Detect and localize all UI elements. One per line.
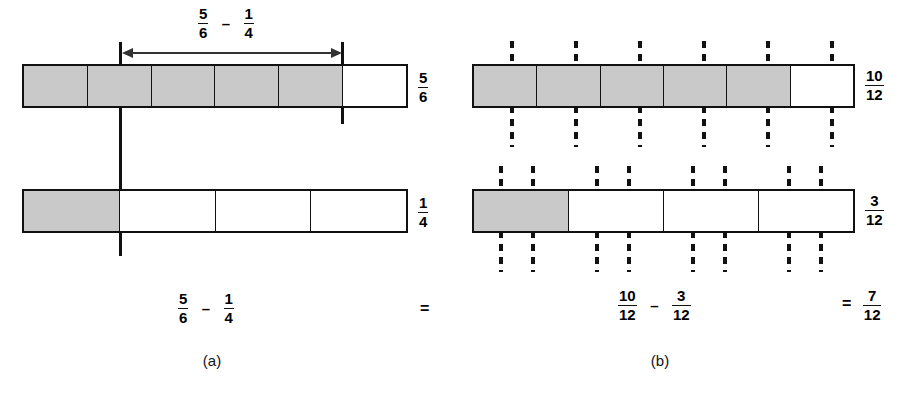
panel-b-equals-sign: = [842,295,851,312]
three-twelfths-label: 3 12 [865,193,884,228]
measure-arrow-line [126,52,340,54]
bar-cell [759,191,853,231]
five-sixths-bar [22,64,408,108]
span-measure-label: 5 6 – 1 4 [198,6,254,41]
three-twelfths-bar [472,189,855,233]
span-label-operator: – [213,15,239,32]
bar-cell [24,66,88,106]
panel-b-result: = 7 12 [842,288,881,323]
fraction-subtraction-figure: 5 6 – 1 4 5 6 1 [0,0,902,396]
bar-cell [24,191,120,231]
panel-a-eq-operator: – [193,300,219,317]
panel-b-caption: (b) [628,352,692,369]
bar-cell [279,66,343,106]
panel-b-result-fraction: 7 12 [863,288,882,323]
ten-twelfths-bar [472,64,855,108]
bar-cell [601,66,664,106]
bar-cell [791,66,853,106]
panel-a-eq-left: 5 6 [178,291,188,326]
ten-twelfths-label: 10 12 [865,68,884,103]
panel-b-eq-left: 10 12 [618,288,637,323]
measure-arrow-left-head [122,48,133,58]
bar-cell [88,66,152,106]
span-label-right-fraction: 1 4 [244,6,254,41]
bar-cell [474,191,569,231]
span-label-left-fraction: 5 6 [198,6,208,41]
bar-cell [215,66,279,106]
bar-cell [216,191,312,231]
panel-a-equation: 5 6 – 1 4 [178,291,234,326]
panel-b-eq-right: 3 12 [672,288,691,323]
one-fourth-label: 1 4 [418,195,428,230]
bar-cell [120,191,216,231]
panel-a-caption: (a) [180,352,244,369]
bar-cell [474,66,537,106]
bar-cell [152,66,216,106]
bar-cell [569,191,664,231]
bar-cell [343,66,406,106]
bar-cell [664,191,759,231]
one-fourth-bar [22,189,408,233]
five-sixths-label: 5 6 [418,70,428,105]
panel-a-eq-right: 1 4 [224,291,234,326]
panel-b-equation: 10 12 – 3 12 [618,288,691,323]
panel-a-equals-sign: = [420,300,429,318]
panel-b-eq-operator: – [641,297,667,314]
bar-cell [311,191,406,231]
bar-cell [537,66,600,106]
bar-cell [664,66,727,106]
bar-cell [727,66,790,106]
